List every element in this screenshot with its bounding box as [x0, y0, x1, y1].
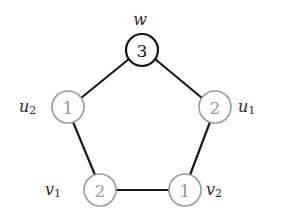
- graph-node-label-w: w: [133, 10, 147, 29]
- graph-node-value-v1: 2: [95, 181, 106, 201]
- graph-edge-u2-v1: [73, 122, 95, 175]
- graph-node-value-w: 3: [137, 41, 148, 61]
- graph-edge-w-u1: [155, 59, 202, 98]
- graph-node-label-u2: u2: [19, 97, 36, 117]
- graph-figure: 31221 wu2u1v1v2: [0, 0, 281, 216]
- graph-node-value-u1: 2: [210, 98, 221, 118]
- edges-group: [73, 59, 210, 190]
- graph-node-label-v2: v2: [206, 180, 222, 200]
- nodes-group: 31221: [52, 34, 231, 206]
- graph-edge-w-u2: [81, 59, 129, 98]
- graph-canvas: 31221 wu2u1v1v2: [0, 0, 281, 216]
- graph-edge-u1-v2: [190, 122, 210, 175]
- graph-node-value-u2: 1: [63, 98, 74, 118]
- graph-node-label-v1: v1: [45, 180, 61, 200]
- graph-node-label-u1: u1: [238, 97, 255, 117]
- graph-node-value-v2: 1: [180, 181, 191, 201]
